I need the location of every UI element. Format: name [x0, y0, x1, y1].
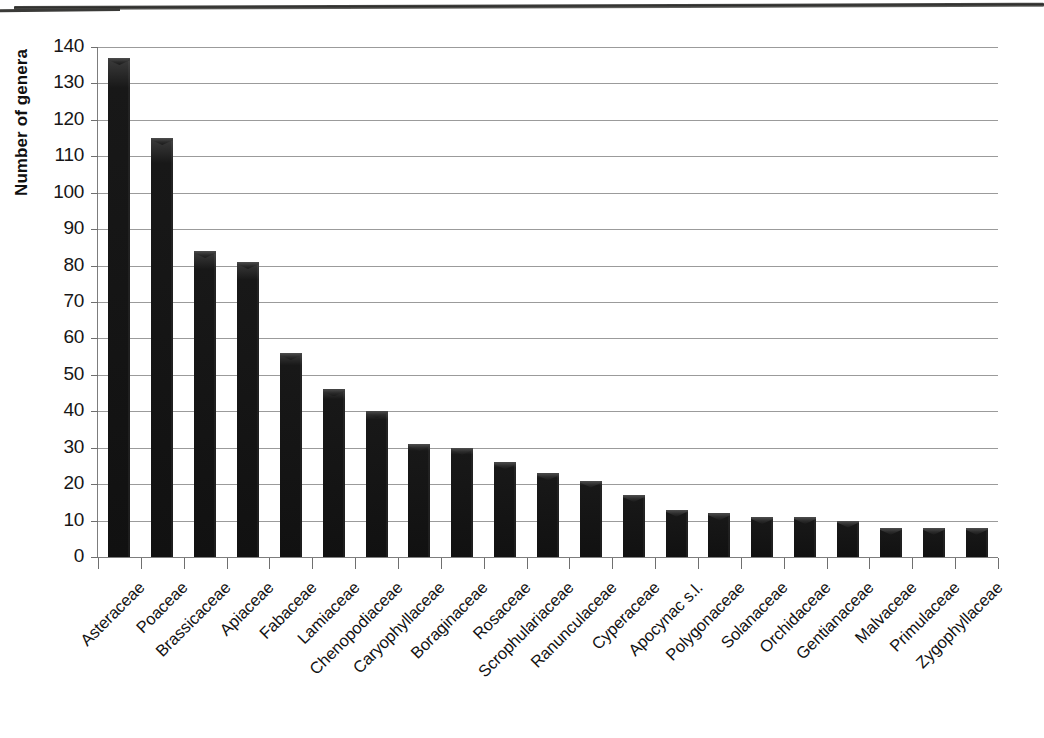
- bar[interactable]: [366, 411, 388, 557]
- y-tick-label-130: 130: [38, 71, 84, 93]
- x-tick-mark: [141, 558, 142, 569]
- x-tick-mark: [569, 558, 570, 569]
- x-tick-mark: [698, 558, 699, 569]
- bar[interactable]: [751, 517, 773, 557]
- y-tick-label-70: 70: [38, 290, 84, 312]
- bar[interactable]: [666, 510, 688, 557]
- x-tick-mark: [655, 558, 656, 569]
- y-tick-label-40: 40: [38, 399, 84, 421]
- x-tick-mark: [484, 558, 485, 569]
- gridline-50: [98, 375, 998, 376]
- x-tick-mark: [527, 558, 528, 569]
- bar[interactable]: [623, 495, 645, 557]
- y-tick-mark-120: [91, 120, 98, 121]
- bar-chart: Number of genera 01020304050607080901001…: [0, 0, 1044, 738]
- bar[interactable]: [108, 58, 130, 557]
- bar[interactable]: [580, 481, 602, 558]
- y-tick-mark-30: [91, 448, 98, 449]
- y-tick-mark-40: [91, 411, 98, 412]
- bar[interactable]: [451, 448, 473, 557]
- gridline-80: [98, 266, 998, 267]
- y-tick-label-50: 50: [38, 363, 84, 385]
- x-tick-mark: [869, 558, 870, 569]
- y-tick-mark-70: [91, 302, 98, 303]
- bar[interactable]: [966, 528, 988, 557]
- bar[interactable]: [323, 389, 345, 557]
- x-tick-mark: [612, 558, 613, 569]
- gridline-100: [98, 193, 998, 194]
- bar[interactable]: [880, 528, 902, 557]
- x-tick-mark: [355, 558, 356, 569]
- x-tick-mark: [398, 558, 399, 569]
- gridline-30: [98, 448, 998, 449]
- bar[interactable]: [794, 517, 816, 557]
- bar[interactable]: [280, 353, 302, 557]
- bar[interactable]: [537, 473, 559, 557]
- y-tick-mark-100: [91, 193, 98, 194]
- x-tick-mark: [784, 558, 785, 569]
- gridline-140: [98, 47, 998, 48]
- y-tick-mark-10: [91, 521, 98, 522]
- x-tick-mark: [741, 558, 742, 569]
- gridline-70: [98, 302, 998, 303]
- y-tick-mark-60: [91, 338, 98, 339]
- y-tick-label-80: 80: [38, 254, 84, 276]
- x-tick-mark: [269, 558, 270, 569]
- y-tick-label-20: 20: [38, 472, 84, 494]
- x-tick-mark: [441, 558, 442, 569]
- x-tick-mark: [98, 558, 99, 569]
- gridline-130: [98, 83, 998, 84]
- bar[interactable]: [494, 462, 516, 557]
- x-tick-mark: [312, 558, 313, 569]
- y-tick-mark-140: [91, 47, 98, 48]
- x-tick-mark: [227, 558, 228, 569]
- y-tick-label-110: 110: [38, 144, 84, 166]
- bar[interactable]: [151, 138, 173, 557]
- bar[interactable]: [408, 444, 430, 557]
- y-tick-label-140: 140: [38, 35, 84, 57]
- y-tick-mark-110: [91, 156, 98, 157]
- bar[interactable]: [923, 528, 945, 557]
- y-tick-label-10: 10: [38, 509, 84, 531]
- gridline-40: [98, 411, 998, 412]
- gridline-120: [98, 120, 998, 121]
- bar[interactable]: [194, 251, 216, 557]
- y-tick-label-0: 0: [38, 545, 84, 567]
- chart-page: Number of genera 01020304050607080901001…: [0, 0, 1044, 738]
- y-tick-mark-20: [91, 484, 98, 485]
- y-tick-mark-90: [91, 229, 98, 230]
- y-tick-label-120: 120: [38, 108, 84, 130]
- y-tick-label-30: 30: [38, 436, 84, 458]
- plot-area: [98, 47, 998, 557]
- y-tick-mark-80: [91, 266, 98, 267]
- bar[interactable]: [708, 513, 730, 557]
- x-tick-mark: [912, 558, 913, 569]
- y-tick-mark-50: [91, 375, 98, 376]
- bar[interactable]: [837, 521, 859, 557]
- y-tick-label-100: 100: [38, 181, 84, 203]
- gridline-0: [98, 557, 998, 558]
- y-tick-label-60: 60: [38, 326, 84, 348]
- gridline-90: [98, 229, 998, 230]
- gridline-60: [98, 338, 998, 339]
- bar[interactable]: [237, 262, 259, 557]
- x-tick-mark: [998, 558, 999, 569]
- y-axis-title: Number of genera: [12, 0, 32, 196]
- gridline-110: [98, 156, 998, 157]
- y-tick-label-90: 90: [38, 217, 84, 239]
- y-tick-mark-130: [91, 83, 98, 84]
- x-tick-mark: [184, 558, 185, 569]
- x-tick-mark: [827, 558, 828, 569]
- y-tick-mark-0: [91, 557, 98, 558]
- x-tick-mark: [955, 558, 956, 569]
